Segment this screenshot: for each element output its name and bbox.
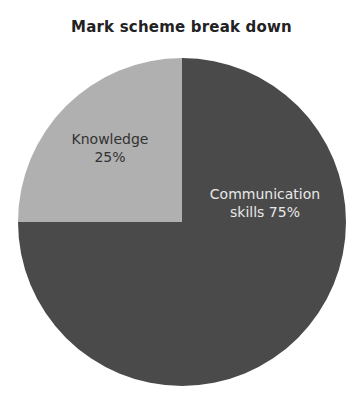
slice-label-percent: 25% [50,148,170,166]
slice-label-name: Knowledge [50,130,170,148]
slice-label-name: Communication [190,185,340,203]
slice-label-percent: skills 75% [190,203,340,221]
slice-label-knowledge: Knowledge 25% [50,130,170,166]
slice-label-communication-skills: Communication skills 75% [190,185,340,221]
